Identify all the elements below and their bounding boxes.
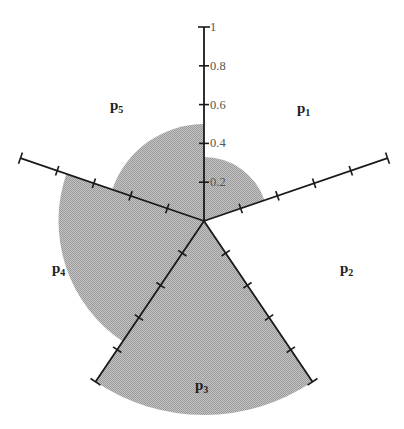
sectors-group — [58, 124, 312, 415]
category-label-p2: p2 — [340, 260, 353, 278]
radial-tick-label: 0.6 — [210, 98, 226, 112]
polar-area-chart: 0.20.40.60.81 p1p2p3p4p5 — [0, 0, 404, 429]
category-label-p5: p5 — [110, 97, 123, 115]
radial-tick-label: 0.8 — [210, 59, 226, 73]
radial-tick-label: 0.4 — [210, 136, 226, 150]
category-label-p1: p1 — [297, 100, 310, 118]
radial-tick-label: 0.2 — [210, 175, 226, 189]
category-label-p4: p4 — [52, 260, 65, 278]
radial-tick-label: 1 — [210, 20, 216, 34]
